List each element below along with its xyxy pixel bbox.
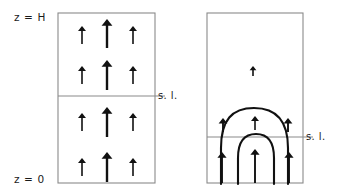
flux-arrow-icon <box>284 152 293 183</box>
flux-arrow-icon <box>78 26 86 44</box>
arrow-head <box>250 149 259 155</box>
label-sea-level-right: s. l. <box>306 131 326 142</box>
figure-svg: z = H z = 0 s. l. s. l. <box>0 0 340 193</box>
arrow-head <box>129 158 137 163</box>
flux-arrow-icon <box>102 19 113 48</box>
arrow-head <box>102 19 113 26</box>
flux-arrow-icon <box>129 113 137 131</box>
flux-arrow-icon <box>78 113 86 131</box>
arrow-head <box>78 26 86 31</box>
arrow-head <box>250 66 257 70</box>
flux-arrow-icon <box>250 66 257 76</box>
figure-container: z = H z = 0 s. l. s. l. <box>0 0 340 193</box>
arrow-head <box>284 152 293 158</box>
label-z-top: z = H <box>14 11 46 23</box>
label-sea-level-left: s. l. <box>158 90 178 101</box>
flux-arrow-icon <box>102 152 113 182</box>
flux-arrow-icon <box>129 26 137 44</box>
arrow-head <box>129 66 137 71</box>
sea-level-group <box>58 96 313 137</box>
arrow-head <box>217 152 226 158</box>
flux-arrow-icon <box>251 116 259 130</box>
arrow-head <box>284 118 293 124</box>
flux-arrow-icon <box>102 60 113 90</box>
flux-arrow-icon <box>129 158 137 176</box>
flux-arrow-icon <box>250 149 259 183</box>
label-z-bottom: z = 0 <box>14 173 45 185</box>
arrow-head <box>251 116 259 121</box>
flux-arrow-icon <box>219 118 228 132</box>
arrow-head <box>129 113 137 118</box>
arrow-head <box>78 66 86 71</box>
arrow-head <box>102 60 113 67</box>
arrow-head <box>102 107 113 114</box>
flux-arrow-icon <box>102 107 113 137</box>
flux-arrow-icon <box>78 66 86 84</box>
flux-arrow-icon <box>217 152 226 183</box>
arrow-head <box>78 113 86 118</box>
flux-arrow-icon <box>129 66 137 84</box>
inner-arch <box>238 134 274 184</box>
flux-arrow-icon <box>78 158 86 176</box>
arrow-head <box>129 26 137 31</box>
arrow-head <box>102 152 113 159</box>
arrow-group <box>78 19 294 183</box>
arrow-head <box>78 158 86 163</box>
